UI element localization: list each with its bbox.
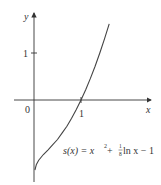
svg-text:s(x) = x: s(x) = x bbox=[63, 145, 95, 157]
formula-annotation: s(x) = x 2 + 1 8 ln x − 1 bbox=[63, 143, 154, 157]
svg-text:ln x − 1: ln x − 1 bbox=[123, 145, 154, 156]
x-tick-label-1: 1 bbox=[79, 108, 84, 119]
function-plot: y x 0 1 1 s(x) = x 2 + 1 8 ln x − 1 bbox=[0, 0, 161, 185]
svg-text:1: 1 bbox=[119, 143, 122, 149]
y-tick-label-1: 1 bbox=[23, 48, 28, 59]
svg-text:8: 8 bbox=[119, 151, 122, 157]
svg-text:+: + bbox=[107, 145, 113, 156]
y-axis-label: y bbox=[23, 11, 29, 22]
x-axis-label: x bbox=[145, 104, 151, 115]
origin-label: 0 bbox=[25, 104, 30, 115]
